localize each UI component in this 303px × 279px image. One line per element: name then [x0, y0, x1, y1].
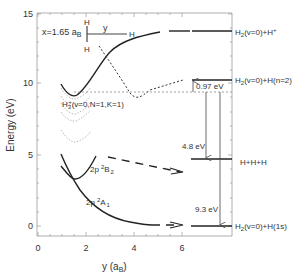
annotation-097: 0.97 eV	[196, 82, 224, 91]
xtick-label: 2	[83, 243, 88, 253]
threshold-label-h2-hplus: H2(v=0)+H+	[235, 27, 277, 38]
h3-label: H3+(v=0,N=1,K=1)	[62, 99, 124, 110]
ytick-label: 0	[28, 221, 33, 231]
x-axis-title: y (aB)	[102, 261, 127, 273]
y-axis-title: Energy (eV)	[5, 98, 16, 151]
xtick-label: 6	[179, 243, 184, 253]
energy-arrows	[193, 81, 220, 225]
annotation-48: 4.8 eV	[182, 142, 206, 151]
svg-text:x=1.65 aB: x=1.65 aB	[42, 27, 82, 38]
x-ticks	[38, 13, 182, 236]
energy-chart: 15 10 5 0 0 2 4 6 Energy (eV) y (aB) x=1…	[0, 0, 303, 279]
plot-frame	[37, 13, 232, 236]
svg-text:y: y	[103, 23, 108, 33]
threshold-lines	[191, 31, 232, 226]
ytick-label: 10	[23, 78, 33, 88]
b2-asymptote	[108, 157, 180, 172]
ytick-label: 5	[28, 150, 33, 160]
ytick-label: 15	[23, 9, 33, 19]
threshold-label-h2-hn2: H2(v=0)+H(n=2)	[235, 76, 292, 86]
a1-label: 2p2A1	[86, 197, 111, 208]
upper-solid-curve	[61, 32, 160, 96]
annotation-93: 9.3 eV	[195, 205, 219, 214]
upper-dotted-curve	[99, 46, 183, 97]
svg-text:H: H	[84, 45, 90, 54]
svg-text:H: H	[84, 18, 90, 27]
xtick-label: 0	[35, 243, 40, 253]
threshold-label-h2-h1s: H2(v=0)+H(1s)	[235, 222, 287, 232]
y-ticks	[37, 14, 232, 226]
inset-geometry: x=1.65 aB H H H y	[42, 18, 135, 54]
xtick-label: 4	[131, 243, 136, 253]
threshold-label-hhh: H+H+H	[240, 158, 267, 167]
b2-label: 2p2B2	[90, 164, 115, 175]
